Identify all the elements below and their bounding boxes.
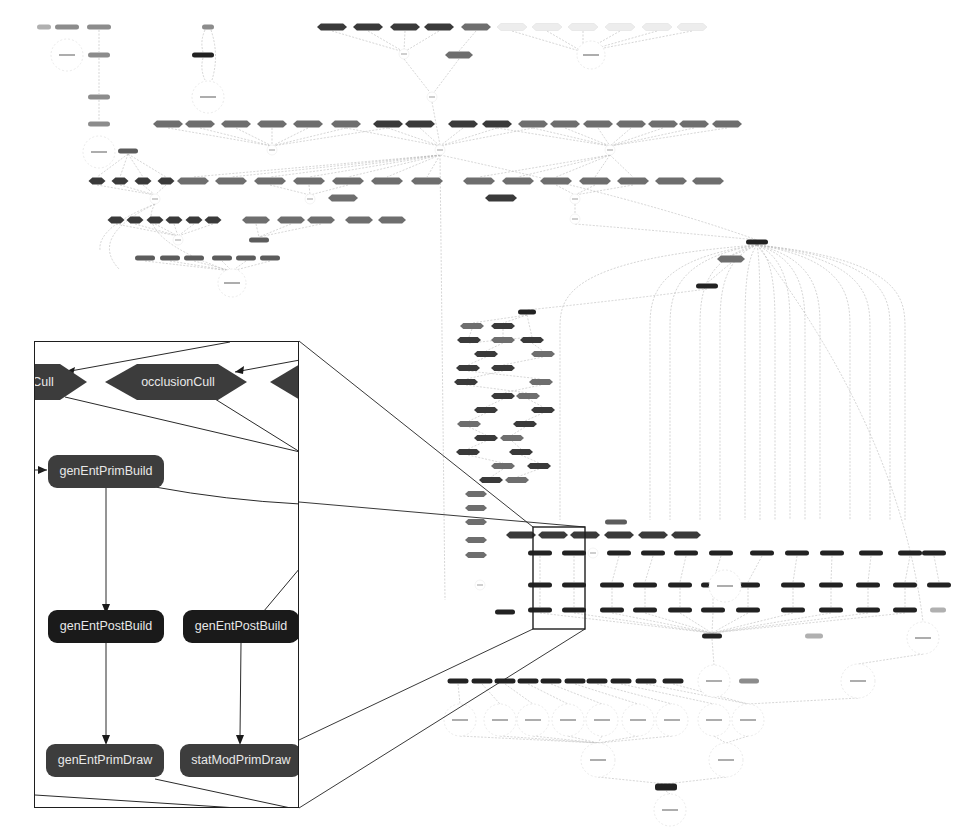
hexagon-node[interactable]: [461, 24, 491, 31]
task-node[interactable]: [518, 310, 536, 315]
task-node[interactable]: [160, 256, 180, 261]
hexagon-node[interactable]: [482, 121, 512, 128]
hexagon-node[interactable]: [307, 217, 335, 224]
hexagon-node[interactable]: [215, 178, 247, 185]
task-node[interactable]: [819, 583, 843, 588]
task-node[interactable]: [922, 551, 946, 556]
hexagon-node[interactable]: [465, 519, 487, 525]
hexagon-node[interactable]: [205, 217, 222, 224]
hexagon-node[interactable]: [509, 449, 533, 455]
hexagon-node[interactable]: [185, 121, 215, 128]
hexagon-node[interactable]: [500, 435, 524, 441]
task-node[interactable]: [37, 25, 51, 30]
task-node[interactable]: [600, 608, 624, 613]
hexagon-node[interactable]: [277, 217, 305, 224]
hexagon-node[interactable]: [677, 24, 707, 31]
task-node[interactable]: [702, 634, 722, 639]
hexagon-node[interactable]: [127, 217, 144, 224]
hexagon-node[interactable]: [177, 178, 209, 185]
hexagon-node[interactable]: [331, 121, 361, 128]
hexagon-node[interactable]: [474, 435, 498, 441]
hexagon-node[interactable]: [491, 337, 515, 343]
hexagon-node[interactable]: [616, 121, 646, 128]
task-node[interactable]: [607, 551, 631, 556]
hexagon-node[interactable]: [505, 477, 529, 483]
task-node[interactable]: [709, 551, 733, 556]
hexagon-node[interactable]: [474, 351, 498, 357]
task-node[interactable]: [633, 608, 657, 613]
hexagon-node[interactable]: [135, 178, 152, 185]
hexagon-node[interactable]: [448, 121, 478, 128]
task-node[interactable]: [633, 583, 657, 588]
hexagon-node[interactable]: [717, 256, 745, 263]
hexagon-node[interactable]: [497, 24, 527, 31]
task-node[interactable]: [701, 608, 725, 613]
hexagon-node[interactable]: [147, 217, 164, 224]
hexagon-node[interactable]: [583, 121, 613, 128]
task-node[interactable]: [696, 284, 718, 289]
hexagon-node[interactable]: [153, 121, 183, 128]
hexagon-node[interactable]: [474, 407, 498, 413]
task-node[interactable]: [785, 551, 809, 556]
hexagon-node[interactable]: [465, 491, 487, 497]
hexagon-node[interactable]: [491, 393, 515, 399]
task-node[interactable]: [448, 679, 469, 684]
hexagon-node[interactable]: [531, 407, 555, 413]
hexagon-node[interactable]: [456, 449, 480, 455]
hexagon-node[interactable]: [257, 121, 287, 128]
task-node[interactable]: [528, 551, 552, 556]
hexagon-node[interactable]: [648, 121, 678, 128]
hexagon-node[interactable]: [516, 393, 540, 399]
task-node[interactable]: [611, 679, 632, 684]
hexagon-node[interactable]: [166, 217, 183, 224]
hexagon-node[interactable]: [538, 532, 568, 539]
task-node[interactable]: [605, 520, 627, 525]
task-node[interactable]: [184, 256, 204, 261]
task-node[interactable]: [88, 122, 110, 127]
hexagon-node[interactable]: [491, 323, 515, 329]
hexagon-node[interactable]: [655, 178, 687, 185]
task-node[interactable]: [736, 608, 760, 613]
hexagon-node[interactable]: [518, 121, 548, 128]
task-node[interactable]: [541, 679, 562, 684]
hexagon-node[interactable]: [712, 121, 742, 128]
hexagon-node[interactable]: [373, 121, 403, 128]
hexagon-node[interactable]: [532, 24, 562, 31]
task-node[interactable]: [893, 583, 917, 588]
hexagon-node[interactable]: [345, 217, 373, 224]
task-node[interactable]: [565, 679, 586, 684]
task-node[interactable]: [663, 679, 684, 684]
task-node[interactable]: [562, 608, 586, 613]
task-node[interactable]: [249, 238, 269, 243]
task-node[interactable]: [668, 608, 692, 613]
hexagon-node[interactable]: [531, 351, 555, 357]
task-node[interactable]: [528, 608, 552, 613]
hexagon-node[interactable]: [513, 421, 537, 427]
task-node[interactable]: [587, 679, 608, 684]
hexagon-node[interactable]: [158, 178, 175, 185]
hexagon-node[interactable]: [465, 552, 487, 558]
hexagon-node[interactable]: [540, 178, 572, 185]
task-node[interactable]: [819, 608, 843, 613]
hexagon-node[interactable]: [328, 195, 358, 202]
task-node[interactable]: [495, 610, 515, 615]
task-node[interactable]: [88, 53, 110, 58]
task-node[interactable]: [518, 679, 539, 684]
hexagon-node[interactable]: [445, 52, 473, 59]
task-node[interactable]: [930, 608, 946, 613]
hexagon-node[interactable]: [108, 217, 125, 224]
hexagon-node[interactable]: [527, 463, 551, 469]
hexagon-node[interactable]: [254, 178, 286, 185]
task-node[interactable]: [472, 679, 493, 684]
hexagon-node[interactable]: [463, 178, 495, 185]
task-node[interactable]: [781, 608, 805, 613]
hexagon-node[interactable]: [579, 178, 611, 185]
hexagon-node[interactable]: [479, 477, 503, 483]
hexagon-node[interactable]: [679, 121, 709, 128]
task-node[interactable]: [856, 608, 880, 613]
hexagon-node[interactable]: [491, 365, 515, 371]
hexagon-node[interactable]: [520, 337, 544, 343]
task-node[interactable]: [739, 679, 759, 684]
task-node[interactable]: [202, 25, 214, 30]
hexagon-node[interactable]: [186, 217, 203, 224]
